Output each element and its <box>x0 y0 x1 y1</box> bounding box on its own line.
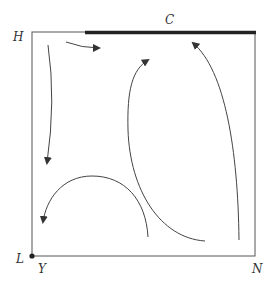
diagram-canvas: H C L Y N <box>0 0 275 285</box>
flow-top-short <box>66 42 99 48</box>
flow-left-descending <box>47 45 52 163</box>
label-c: C <box>165 13 174 27</box>
origin-dot <box>29 253 34 258</box>
flow-right-rising <box>193 43 239 240</box>
label-l: L <box>15 252 24 266</box>
flow-middle-rising <box>128 60 205 241</box>
label-n: N <box>251 262 263 276</box>
flow-arc-left <box>43 176 148 237</box>
label-h: H <box>12 30 24 44</box>
label-y: Y <box>38 262 47 276</box>
diagram-frame <box>32 32 255 256</box>
